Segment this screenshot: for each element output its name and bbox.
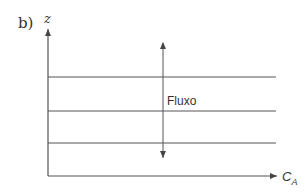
x-axis-label-main: C (282, 169, 291, 184)
flow-label: Fluxo (167, 94, 196, 108)
diagram-canvas (0, 0, 304, 194)
horizontal-layer-lines (48, 77, 276, 143)
x-axis-label: CA (282, 169, 297, 187)
x-axis-label-subscript: A (291, 177, 297, 187)
